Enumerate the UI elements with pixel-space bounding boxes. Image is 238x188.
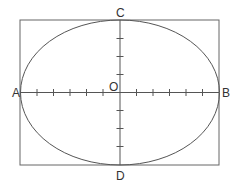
label-B: B <box>222 86 230 100</box>
label-O: O <box>109 80 118 94</box>
label-A: A <box>12 86 20 100</box>
label-D: D <box>116 169 125 183</box>
label-C: C <box>116 6 125 20</box>
ellipse-diagram: A B C D O <box>0 0 238 188</box>
